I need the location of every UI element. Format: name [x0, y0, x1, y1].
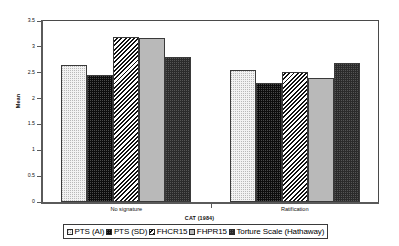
x-axis-category-label: Ratification — [245, 206, 345, 212]
legend-label: PTS (AI) — [75, 227, 105, 236]
chart-legend: PTS (AI)PTS (SD)FHCR15FHPR15Torture Scal… — [63, 224, 328, 239]
legend-swatch-icon — [106, 229, 112, 235]
legend-label: PTS (SD) — [114, 227, 147, 236]
legend-item: Torture Scale (Hathaway) — [229, 227, 324, 236]
y-axis-title: Mean — [15, 81, 21, 121]
bar — [334, 63, 360, 202]
y-axis-tick-label: 0 — [13, 199, 35, 204]
y-axis-tick-label: 3.5 — [13, 18, 35, 23]
y-axis-tick-label: 3 — [13, 44, 35, 49]
bar-chart-figure: 00.511.522.533.5 Mean No signatureRatifi… — [0, 0, 399, 246]
y-axis-tick — [37, 150, 41, 151]
x-axis-tick — [211, 204, 212, 208]
legend-swatch-icon — [149, 229, 155, 235]
bar — [256, 83, 282, 202]
legend-item: FHPR15 — [189, 227, 227, 236]
bar — [139, 38, 165, 202]
y-axis-tick — [37, 176, 41, 177]
legend-item: PTS (SD) — [106, 227, 147, 236]
bar — [308, 78, 334, 202]
legend-label: FHCR15 — [157, 227, 188, 236]
y-axis-tick — [37, 98, 41, 99]
bar — [113, 37, 139, 202]
y-axis-tick-label: 0.5 — [13, 173, 35, 178]
y-axis-tick-label: 1.5 — [13, 121, 35, 126]
x-axis-title: CAT (1984) — [0, 215, 399, 221]
legend-label: Torture Scale (Hathaway) — [236, 227, 324, 236]
y-axis-tick-label: 1 — [13, 147, 35, 152]
bar — [230, 70, 256, 202]
y-axis-tick-label: 2.5 — [13, 70, 35, 75]
x-axis-category-label: No signature — [76, 206, 176, 212]
legend-label: FHPR15 — [197, 227, 227, 236]
y-axis-line — [41, 20, 43, 204]
bar — [87, 75, 113, 202]
legend-swatch-icon — [189, 229, 195, 235]
y-axis-tick — [37, 21, 41, 22]
legend-item: FHCR15 — [149, 227, 187, 236]
bar — [165, 57, 191, 202]
y-axis-tick — [37, 124, 41, 125]
y-axis-tick — [37, 46, 41, 47]
y-axis-tick — [37, 72, 41, 73]
legend-swatch-icon — [67, 229, 73, 235]
bar — [282, 72, 308, 202]
bar — [61, 65, 87, 202]
y-axis-tick — [37, 202, 41, 203]
legend-item: PTS (AI) — [67, 227, 104, 236]
legend-swatch-icon — [229, 229, 235, 235]
